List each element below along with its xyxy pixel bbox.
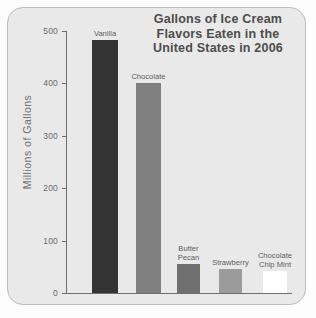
bar: [136, 83, 161, 293]
chart-title: Gallons of Ice Cream Flavors Eaten in th…: [130, 12, 306, 56]
y-axis-tick: [62, 188, 67, 189]
chart-figure: 0100200300400500 Millions of Gallons Gal…: [0, 0, 316, 318]
y-axis-tick: [62, 136, 67, 137]
chart-title-line-2: Flavors Eaten in the: [130, 27, 306, 42]
y-axis-tick: [62, 83, 67, 84]
y-axis-tick: [62, 31, 67, 32]
y-axis-tick-label: 100: [18, 236, 58, 246]
chart-title-line-1: Gallons of Ice Cream: [130, 12, 306, 27]
y-axis-label: Millions of Gallons: [21, 87, 33, 197]
bar-label: Vanilla: [75, 30, 135, 38]
bar-label: Chocolate Chip Mint: [245, 252, 305, 269]
chart-title-line-3: United States in 2006: [130, 41, 306, 56]
plot-area: 0100200300400500 Millions of Gallons Gal…: [0, 0, 316, 318]
y-axis-tick: [62, 293, 67, 294]
y-axis-tick-label: 0: [18, 288, 58, 298]
bar: [263, 271, 287, 293]
x-axis-line: [66, 293, 292, 294]
y-axis-tick: [62, 241, 67, 242]
bar-label: Chocolate: [119, 73, 179, 81]
bar: [177, 264, 200, 293]
bar: [219, 269, 242, 293]
y-axis-tick-label: 500: [18, 26, 58, 36]
y-axis-line: [66, 31, 67, 294]
bar: [92, 40, 118, 293]
